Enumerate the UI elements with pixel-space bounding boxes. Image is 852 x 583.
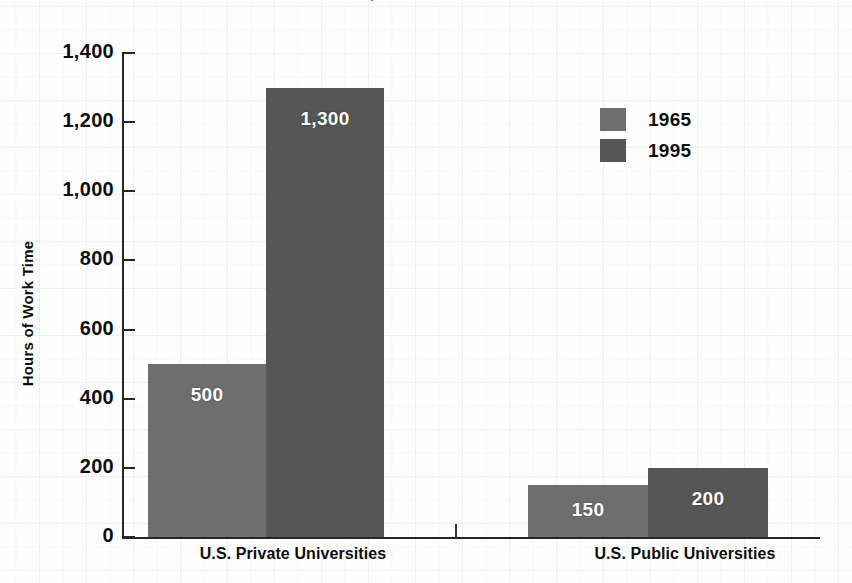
legend-label: 1995	[648, 140, 691, 162]
plot-area: 5001,300150200	[0, 0, 852, 539]
bar-value-label: 500	[148, 384, 266, 406]
bar-value-label: 1,300	[266, 108, 384, 130]
bar-public-1965: 150	[528, 485, 648, 537]
legend-label: 1965	[648, 109, 691, 131]
bar-private-1995: 1,300	[266, 88, 384, 537]
legend-item-1965: 1965	[600, 104, 691, 135]
legend-swatch-icon	[600, 108, 626, 131]
chart-canvas: Cost of a Computer in Hours of Work Time…	[0, 0, 852, 583]
x-axis-category-label: U.S. Private Universities	[128, 545, 458, 563]
legend-swatch-icon	[600, 139, 626, 162]
legend-item-1995: 1995	[600, 135, 691, 166]
bar-value-label: 150	[528, 499, 648, 521]
bar-value-label: 200	[648, 488, 768, 510]
chart-legend: 19651995	[600, 104, 691, 166]
bar-public-1995: 200	[648, 468, 768, 537]
bar-private-1965: 500	[148, 364, 266, 537]
x-axis-category-label: U.S. Public Universities	[520, 545, 850, 563]
